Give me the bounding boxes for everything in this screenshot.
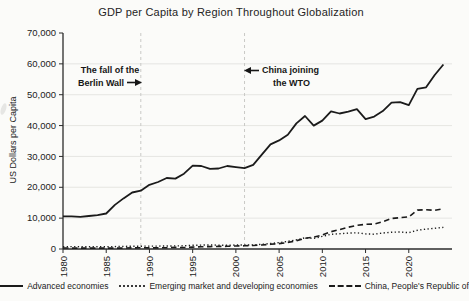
- y-tick-label: 40,000: [27, 120, 56, 131]
- arrow-left-icon: [244, 66, 259, 75]
- legend-label: Advanced economies: [27, 281, 108, 291]
- legend-item-advanced: Advanced economies: [0, 281, 108, 291]
- legend-swatch-dashed-line: [329, 285, 361, 287]
- annotation-text: The fall of the: [81, 64, 140, 77]
- x-tick-label: 2015: [360, 256, 371, 277]
- legend-swatch-dotted-line: [119, 285, 145, 287]
- y-tick-label: 0: [51, 243, 56, 254]
- legend-item-emerging: Emerging market and developing economies: [119, 281, 317, 291]
- x-tick-label: 1980: [58, 256, 69, 277]
- legend-swatch-solid-line: [0, 285, 23, 287]
- annotation-text: China joining: [262, 64, 319, 77]
- legend-item-china: China, People's Republic of: [329, 281, 469, 291]
- x-tick-label: 2020: [403, 256, 414, 277]
- annotation-china-wto: China joining the WTO: [244, 64, 319, 89]
- y-tick-label: 20,000: [27, 181, 56, 192]
- legend-label: China, People's Republic of: [365, 281, 469, 291]
- y-tick-label: 10,000: [27, 212, 56, 223]
- arrow-right-icon: [127, 78, 142, 87]
- legend: Advanced economies Emerging market and d…: [0, 281, 462, 291]
- y-tick-label: 30,000: [27, 151, 56, 162]
- x-tick-label: 1985: [101, 256, 112, 277]
- x-tick-label: 1995: [187, 256, 198, 277]
- series-line-dashed: [63, 209, 443, 248]
- x-tick-label: 2005: [274, 256, 285, 277]
- annotation-text: the WTO: [273, 77, 310, 90]
- annotation-text: Berlin Wall: [78, 77, 124, 90]
- annotation-berlin-wall: The fall of the Berlin Wall: [76, 64, 144, 89]
- y-tick-label: 60,000: [27, 58, 56, 69]
- x-tick-label: 2000: [230, 256, 241, 277]
- y-tick-label: 70,000: [27, 27, 56, 38]
- legend-label: Emerging market and developing economies: [149, 281, 317, 291]
- y-tick-label: 50,000: [27, 89, 56, 100]
- series-line-dotted: [63, 227, 443, 246]
- x-tick-label: 2010: [317, 256, 328, 277]
- x-tick-label: 1990: [144, 256, 155, 277]
